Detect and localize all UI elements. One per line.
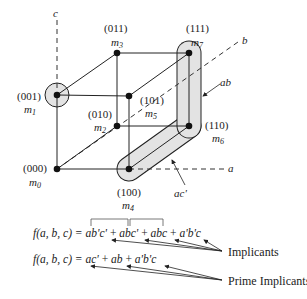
grouping-label-ab: ab (203, 76, 232, 96)
term-combine-brackets (91, 219, 163, 226)
svg-text:(111): (111) (186, 22, 209, 35)
svg-text:m6: m6 (212, 132, 224, 146)
equation-prime-implicants: f(a, b, c) = ac' + ab + a'b'c (33, 253, 156, 266)
node-m2 (114, 123, 121, 130)
node-label-m5: (101) m5 (140, 94, 164, 121)
node-m0 (54, 166, 61, 173)
prime-implicants-arrows (91, 266, 222, 280)
equation-implicants: f(a, b, c) = ab'c' + abc' + abc + a'b'c (33, 227, 201, 240)
svg-text:(010): (010) (88, 108, 112, 121)
grouping-label-ac-prime: ac' (172, 160, 187, 199)
node-m7 (186, 50, 193, 57)
node-m5 (126, 93, 133, 100)
axis-label-c: c (53, 7, 58, 19)
svg-text:m7: m7 (191, 36, 204, 50)
svg-text:(100): (100) (117, 186, 141, 199)
node-label-m2: (010) m2 (88, 108, 112, 135)
svg-text:m4: m4 (122, 199, 134, 213)
svg-text:(101): (101) (140, 94, 164, 107)
node-m3 (114, 50, 121, 57)
prime-implicants-label: Prime Implicants (228, 274, 307, 288)
node-m6 (186, 123, 193, 130)
implicants-label: Implicants (228, 245, 279, 259)
svg-text:m0: m0 (29, 176, 41, 190)
node-label-m0: (000) m0 (23, 162, 47, 190)
node-label-m4: (100) m4 (117, 186, 141, 213)
node-m1 (54, 92, 61, 99)
axis-label-a: a (228, 162, 234, 174)
svg-text:(001): (001) (17, 90, 41, 103)
node-label-m3: (011) m3 (104, 22, 128, 50)
svg-text:m3: m3 (111, 36, 123, 50)
axis-label-b: b (242, 34, 248, 46)
implicants-arrows (112, 240, 222, 251)
svg-text:m2: m2 (94, 121, 106, 135)
svg-text:(000): (000) (23, 162, 47, 175)
svg-text:ab: ab (220, 76, 232, 88)
boolean-cube-diagram: c b a (011) m3 (111) m7 (001) m1 (101) m… (0, 0, 307, 299)
node-label-m1: (001) m1 (17, 90, 41, 117)
svg-text:m1: m1 (24, 103, 36, 117)
svg-text:ac': ac' (174, 187, 187, 199)
svg-text:(011): (011) (104, 22, 128, 35)
node-label-m6: (110) m6 (205, 119, 229, 146)
node-m4 (126, 166, 133, 173)
svg-text:(110): (110) (205, 119, 229, 132)
svg-text:m5: m5 (145, 107, 157, 121)
